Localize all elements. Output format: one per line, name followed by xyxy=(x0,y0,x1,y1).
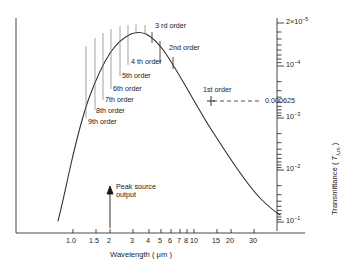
order-label-7th: 7th order xyxy=(105,96,134,104)
y-tick-label-1e-4: 10−4 xyxy=(286,60,300,69)
order-label-2nd: 2nd order xyxy=(169,44,200,52)
x-tick-label-8: 7 xyxy=(177,236,181,245)
x-tick-label-5: 4 xyxy=(146,236,150,245)
x-tick-label-10: 10 xyxy=(190,236,198,245)
x-tick-label-1: 1.0 xyxy=(66,236,76,245)
y-tick-label-1e-2: 10−2 xyxy=(286,164,300,173)
x-axis-title: Wavelength ( μm ) xyxy=(110,250,172,259)
y-tick-label-1e-1: 10−1 xyxy=(286,216,300,225)
chart-canvas xyxy=(0,0,347,278)
x-tick-label-6: 5 xyxy=(158,236,162,245)
x-tick-label-9: 8 xyxy=(184,236,188,245)
x-tick-label-11: 15 xyxy=(212,236,220,245)
peak-source-output-label: Peak source output xyxy=(116,183,156,200)
x-tick-label-4: 3 xyxy=(130,236,134,245)
x-axis-ticks xyxy=(73,229,254,233)
order-label-1st: 1st order xyxy=(203,86,231,94)
order-label-9th: 9th order xyxy=(88,118,117,126)
peak-arrow-head xyxy=(107,186,113,194)
x-tick-label-12: 20 xyxy=(226,236,234,245)
x-tick-label-7: 6 xyxy=(168,236,172,245)
right-axis-ticks xyxy=(277,23,284,222)
order-label-4th: 4 th order xyxy=(131,58,162,66)
peak-source-arrow xyxy=(107,186,113,228)
x-tick-label-13: 30 xyxy=(249,236,257,245)
order-label-5th: 5th order xyxy=(122,72,151,80)
order-label-3rd: 3 rd order xyxy=(155,22,186,30)
order-label-8th: 8th order xyxy=(96,107,125,115)
y-axis-title: Transmittance ( Tλ,m ) xyxy=(330,143,339,215)
transmittance-curve xyxy=(58,33,280,222)
x-tick-label-3: 2 xyxy=(107,236,111,245)
y-tick-label-1e-3: 10−3 xyxy=(286,112,300,121)
transmittance-vs-wavelength-chart: 2×10−5 10−4 10−3 10−2 10−1 Transmittance… xyxy=(0,0,347,278)
y-tick-label-2e-5: 2×10−5 xyxy=(286,17,308,26)
axis-lines xyxy=(16,18,305,233)
first-order-value-label: 0.000625 xyxy=(265,97,295,105)
order-label-6th: 6th order xyxy=(113,85,142,93)
x-tick-label-2: 1.5 xyxy=(89,236,99,245)
